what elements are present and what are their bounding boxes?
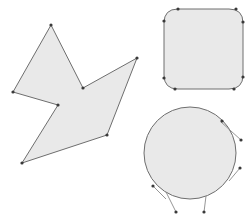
star-arrow-outline[interactable] [13,25,137,163]
vertex-dot[interactable] [176,7,179,10]
vertex-dot[interactable] [174,210,177,213]
vertex-dot[interactable] [49,23,52,26]
vertex-dot[interactable] [162,76,165,79]
rounded-square-outline[interactable] [164,9,243,89]
vertex-dot[interactable] [11,90,14,93]
vertex-dot[interactable] [241,75,244,78]
vertex-dot[interactable] [202,210,205,213]
vertex-dot[interactable] [105,133,108,136]
vertex-dot[interactable] [173,87,176,90]
vertex-dot[interactable] [220,119,223,122]
vertex-dot[interactable] [234,7,237,10]
shapes-svg [0,0,251,220]
vertex-dot[interactable] [162,19,165,22]
vertex-dot[interactable] [241,20,244,23]
vertex-dot[interactable] [232,87,235,90]
vertex-dot[interactable] [238,166,241,169]
spur-line [204,196,206,212]
vertex-dot[interactable] [20,161,23,164]
diagram-canvas [0,0,251,220]
vertex-dot[interactable] [56,103,59,106]
vertex-dot[interactable] [135,56,138,59]
shape-star-arrow-polygon[interactable] [11,23,138,164]
vertex-dot[interactable] [151,184,154,187]
shape-rounded-square[interactable] [162,7,244,90]
shape-circle[interactable] [144,107,243,214]
vertex-dot[interactable] [239,138,242,141]
vertex-dot[interactable] [81,86,84,89]
